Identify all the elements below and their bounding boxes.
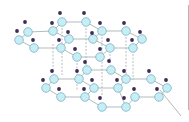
oxygen-atom (96, 53, 105, 62)
hydrogen-atom (83, 60, 87, 64)
hydrogen-atom (115, 78, 119, 82)
oxygen-atom (155, 93, 164, 102)
hydrogen-atom (58, 11, 62, 15)
hydrogen-atom (23, 20, 27, 24)
hydrogen-atom (122, 21, 126, 25)
oxygen-atom (81, 93, 90, 102)
hydrogen-atom (82, 11, 86, 15)
hydrogen-atom (98, 96, 102, 100)
hydrogen-atom (90, 31, 94, 35)
oxygen-atom (30, 44, 39, 53)
hydrogen-atom (130, 38, 134, 42)
oxygen-atom (106, 44, 115, 53)
oxygen-atom (122, 75, 131, 84)
oxygen-atom (131, 93, 140, 102)
hydrogen-atom (90, 78, 94, 82)
hydrogen-atom (31, 38, 35, 42)
oxygen-atom (147, 75, 156, 84)
oxygen-atom (122, 27, 131, 36)
hydrogen-atom (82, 87, 86, 91)
hydrogen-atom (41, 78, 45, 82)
oxygen-atom (163, 84, 172, 93)
hydrogen-atom (106, 38, 110, 42)
hydrogen-atom (155, 87, 159, 91)
oxygen-atom (82, 18, 91, 27)
hydrogen-atom (122, 96, 126, 100)
oxygen-atom (98, 27, 107, 36)
hydrogen-atom (15, 29, 19, 33)
hydrogen-atom (50, 21, 54, 25)
hydrogen-atom (122, 69, 126, 73)
oxygen-atom (129, 44, 138, 53)
oxygen-atom (138, 35, 147, 44)
hydrogen-atom (57, 38, 61, 42)
oxygen-atom (73, 53, 82, 62)
oxygen-atom (57, 44, 66, 53)
ice-lattice-diagram (0, 0, 189, 122)
hydrogen-atom (66, 30, 70, 34)
hydrogen-atom (132, 87, 136, 91)
hydrogen-atom (57, 87, 61, 91)
oxygen-atom (24, 28, 33, 37)
oxygen-atom (83, 66, 92, 75)
hydrogen-atom (75, 69, 79, 73)
oxygen-atom (122, 103, 131, 112)
pointer-line (160, 90, 181, 116)
hydrogen-atom (107, 59, 111, 63)
hydrogen-atom (50, 69, 54, 73)
oxygen-atom (89, 35, 98, 44)
oxygen-atom (58, 18, 67, 27)
hydrogen-atom (164, 78, 168, 82)
oxygen-atom (49, 27, 58, 36)
oxygen-atom (107, 66, 116, 75)
hydrogen-atom (73, 47, 77, 51)
oxygen-atom (57, 93, 66, 102)
hydrogen-atom (98, 47, 102, 51)
oxygen-atom (15, 36, 24, 45)
hydrogen-atom (98, 21, 102, 25)
oxygen-atom (42, 84, 51, 93)
oxygen-atom (114, 84, 123, 93)
hydrogen-atom (138, 30, 142, 34)
oxygen-atom (50, 75, 59, 84)
oxygen-atom (98, 103, 107, 112)
oxygen-atom (90, 84, 99, 93)
oxygen-atom (75, 75, 84, 84)
oxygen-atom (65, 35, 74, 44)
hydrogen-atom (147, 69, 151, 73)
